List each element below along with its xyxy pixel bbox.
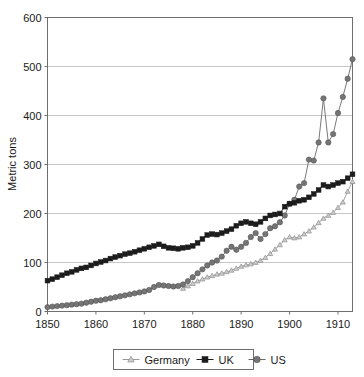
data-point-marker: [98, 260, 103, 265]
y-tick-label: 400: [23, 110, 41, 122]
data-point-marker: [258, 236, 263, 241]
data-point-marker: [345, 176, 350, 181]
data-point-marker: [180, 282, 185, 287]
data-point-marker: [239, 221, 244, 226]
data-point-marker: [263, 231, 268, 236]
data-point-marker: [103, 258, 108, 263]
chart-container: 0100200300400500600 18501860187018801890…: [0, 0, 364, 377]
data-point-marker: [152, 243, 157, 248]
data-point-marker: [277, 220, 282, 225]
data-point-marker: [55, 275, 60, 280]
data-point-marker: [176, 283, 181, 288]
y-tick-label: 0: [35, 306, 41, 318]
data-point-marker: [205, 233, 210, 238]
data-point-marker: [195, 271, 200, 276]
data-point-marker: [94, 261, 99, 266]
data-point-marker: [117, 294, 122, 299]
data-point-marker: [248, 234, 253, 239]
data-point-marker: [161, 244, 166, 249]
data-point-marker: [321, 183, 326, 188]
data-point-marker: [195, 241, 200, 246]
data-point-marker: [267, 226, 272, 231]
y-tick-label: 100: [23, 257, 41, 269]
data-point-marker: [316, 140, 321, 145]
data-point-marker: [137, 248, 142, 253]
legend-label: Germany: [145, 354, 191, 366]
data-point-marker: [258, 219, 263, 224]
legend-label: US: [271, 354, 286, 366]
data-point-marker: [321, 96, 326, 101]
data-point-marker: [59, 303, 64, 308]
data-point-marker: [79, 266, 84, 271]
y-tick-label: 600: [23, 12, 41, 24]
data-point-marker: [108, 256, 113, 261]
data-point-marker: [350, 56, 355, 61]
data-point-marker: [98, 298, 103, 303]
x-tick-label: 1850: [35, 318, 59, 330]
data-point-marker: [200, 237, 205, 242]
data-point-marker: [229, 227, 234, 232]
data-point-marker: [253, 222, 258, 227]
data-point-marker: [311, 192, 316, 197]
data-point-marker: [238, 244, 243, 249]
y-tick-label: 500: [23, 61, 41, 73]
x-tick-label: 1860: [84, 318, 108, 330]
data-point-marker: [200, 267, 205, 272]
data-point-marker: [185, 245, 190, 250]
y-axis-title: Metric tons: [6, 137, 18, 191]
line-chart: 0100200300400500600 18501860187018801890…: [0, 0, 364, 377]
data-point-marker: [113, 295, 118, 300]
data-point-marker: [282, 213, 287, 218]
x-tick-label: 1890: [229, 318, 253, 330]
data-point-marker: [202, 357, 208, 363]
data-point-marker: [350, 172, 355, 177]
data-point-marker: [185, 278, 190, 283]
data-point-marker: [93, 298, 98, 303]
data-point-marker: [297, 184, 302, 189]
data-point-marker: [60, 273, 65, 278]
data-point-marker: [74, 301, 79, 306]
data-point-marker: [210, 232, 215, 237]
data-point-marker: [118, 253, 123, 258]
data-point-marker: [330, 131, 335, 136]
data-point-marker: [89, 263, 94, 268]
data-point-marker: [302, 197, 307, 202]
data-point-marker: [132, 249, 137, 254]
data-point-marker: [146, 287, 151, 292]
data-point-marker: [307, 195, 312, 200]
data-point-marker: [123, 252, 128, 257]
data-point-marker: [273, 212, 278, 217]
data-point-marker: [74, 267, 79, 272]
y-tick-label: 200: [23, 208, 41, 220]
data-point-marker: [113, 255, 118, 260]
data-point-marker: [248, 221, 253, 226]
data-point-marker: [229, 244, 234, 249]
data-point-marker: [190, 275, 195, 280]
data-point-marker: [306, 157, 311, 162]
data-point-marker: [79, 301, 84, 306]
data-point-marker: [127, 292, 132, 297]
data-point-marker: [253, 230, 258, 235]
data-point-marker: [122, 293, 127, 298]
legend-label: UK: [219, 354, 235, 366]
data-point-marker: [268, 213, 273, 218]
data-point-marker: [263, 216, 268, 221]
data-point-marker: [127, 251, 132, 256]
data-point-marker: [103, 297, 108, 302]
data-point-marker: [277, 211, 282, 216]
x-tick-label: 1870: [132, 318, 156, 330]
data-point-marker: [147, 245, 152, 250]
data-point-marker: [64, 302, 69, 307]
data-point-marker: [142, 289, 147, 294]
data-point-marker: [166, 245, 171, 250]
y-tick-label: 300: [23, 159, 41, 171]
data-point-marker: [181, 245, 186, 250]
data-point-marker: [45, 278, 50, 283]
data-point-marker: [205, 263, 210, 268]
data-point-marker: [156, 282, 161, 287]
data-point-marker: [331, 183, 336, 188]
data-point-marker: [151, 284, 156, 289]
data-point-marker: [50, 277, 55, 282]
data-point-marker: [142, 246, 147, 251]
data-point-marker: [137, 290, 142, 295]
